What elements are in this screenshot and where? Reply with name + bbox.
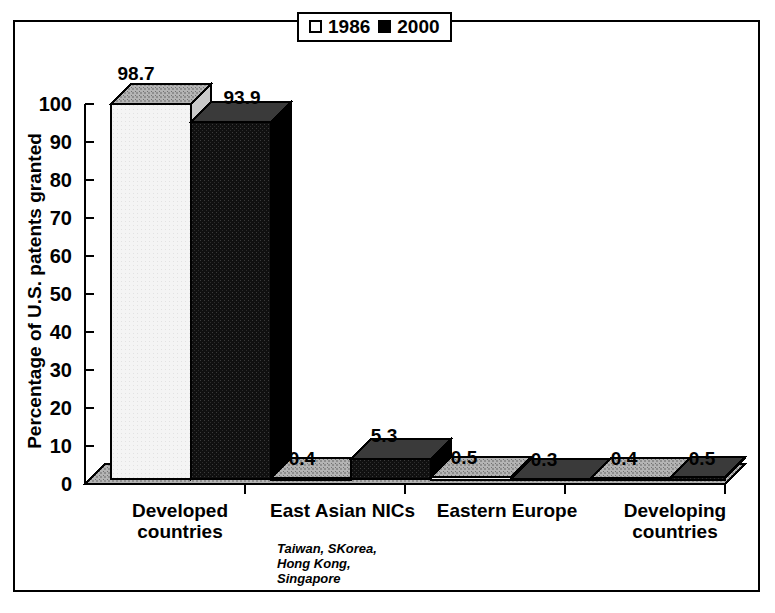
y-tick-label-80: 80 [26, 170, 72, 190]
category-label-line-1: Developed [105, 500, 255, 521]
y-tick-label-60: 60 [26, 246, 72, 266]
category-label-developing-countries: Developing countries [600, 500, 750, 543]
y-tick-label-100: 100 [26, 94, 72, 114]
category-label-line-2: countries [600, 521, 750, 542]
y-tick-label-20: 20 [26, 398, 72, 418]
category-label-line-1: Developing [600, 500, 750, 521]
y-tick-label-70: 70 [26, 208, 72, 228]
category-label-eastern-europe: Eastern Europe [422, 500, 592, 521]
value-label-1986-developed-countries: 98.7 [86, 64, 186, 83]
category-label-developed-countries: Developed countries [105, 500, 255, 543]
y-tick-label-10: 10 [26, 436, 72, 456]
value-label-1986-east-asian-nics: 0.4 [262, 449, 342, 468]
category-note-line-2: Hong Kong, [277, 557, 457, 572]
value-label-2000-developing-countries: 0.5 [662, 449, 742, 468]
legend-entry-2000: 2000 [378, 17, 439, 36]
legend-swatch-white-square [309, 20, 322, 33]
category-label-line-1: East Asian NICs [255, 500, 430, 521]
legend-label-2000: 2000 [397, 17, 439, 36]
category-note-line-3: Singapore [277, 572, 457, 587]
y-tick-label-90: 90 [26, 132, 72, 152]
chart-legend: 1986 2000 [297, 12, 452, 42]
value-label-2000-east-asian-nics: 5.3 [344, 426, 424, 445]
category-label-east-asian-nics: East Asian NICs [255, 500, 430, 521]
category-note-east-asian-nics: Taiwan, SKorea, Hong Kong, Singapore [277, 542, 457, 587]
value-label-2000-developed-countries: 93.9 [192, 88, 292, 107]
y-tick-label-40: 40 [26, 322, 72, 342]
value-label-2000-eastern-europe: 0.3 [504, 450, 584, 469]
category-note-line-1: Taiwan, SKorea, [277, 542, 457, 557]
value-label-1986-developing-countries: 0.4 [584, 449, 664, 468]
legend-swatch-black-square [378, 20, 391, 33]
y-tick-label-50: 50 [26, 284, 72, 304]
category-label-line-2: countries [105, 521, 255, 542]
legend-entry-1986: 1986 [309, 17, 370, 36]
value-label-1986-eastern-europe: 0.5 [424, 448, 504, 467]
y-tick-label-0: 0 [26, 474, 72, 494]
y-tick-label-30: 30 [26, 360, 72, 380]
legend-label-1986: 1986 [328, 17, 370, 36]
category-label-line-1: Eastern Europe [422, 500, 592, 521]
